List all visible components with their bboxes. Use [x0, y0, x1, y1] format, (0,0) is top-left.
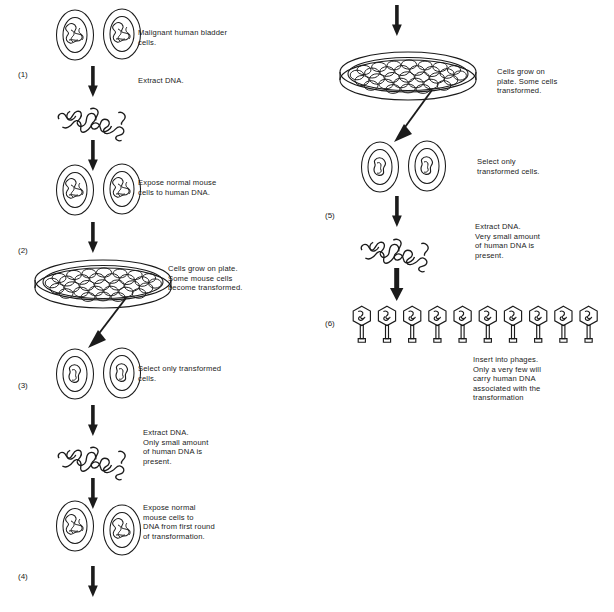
- dna-tangle-very-small-human: [355, 229, 445, 267]
- step-number-6: (6): [325, 319, 335, 328]
- label-select-transformed-1: Select only transformed cells.: [138, 364, 221, 383]
- dna-tangle-small-human: [52, 437, 142, 475]
- cell-pair-mouse-normal-2: [55, 498, 150, 560]
- cell-pair-malignant-bladder: [55, 8, 150, 64]
- arrow-down-9: [390, 268, 404, 304]
- label-expose-mouse-first-round: Expose normal mouse cells to DNA from fi…: [143, 503, 215, 541]
- dna-tangle-human: [52, 98, 142, 136]
- cell-pair-mouse-normal-1: [55, 163, 150, 219]
- pointer-arrow-dish-to-cells-1: [82, 296, 132, 352]
- arrow-down-4: [88, 405, 100, 438]
- label-cells-grow-plate-1: Cells grow on plate. Some mouse cells be…: [168, 264, 243, 293]
- cell-pair-transformed-1: [55, 347, 150, 403]
- arrow-down-8: [392, 196, 404, 229]
- step-number-3: (3): [18, 381, 28, 390]
- label-extract-dna-3: Extract DNA. Very small amount of human …: [475, 222, 540, 260]
- step-number-1: (1): [18, 70, 28, 79]
- label-expose-mouse-human-dna: Expose normal mouse cells to human DNA.: [138, 178, 216, 197]
- cell-pair-transformed-2: [360, 140, 455, 196]
- arrow-down-1: [88, 66, 100, 99]
- phage-row: [351, 305, 599, 347]
- arrow-down-6: [88, 566, 100, 599]
- pointer-arrow-dish-to-cells-2: [386, 88, 438, 146]
- label-extract-dna-1: Extract DNA.: [138, 76, 184, 86]
- label-insert-phages: Insert into phages. Only a very few will…: [473, 355, 541, 403]
- label-malignant-cells: Malignant human bladder cells.: [138, 28, 227, 47]
- figure-canvas: (1) (2) (3) (4) Malignant human bladder …: [0, 0, 614, 612]
- label-cells-grow-plate-2: Cells grow on plate. Some cells transfor…: [497, 67, 557, 96]
- arrow-down-3: [88, 222, 100, 255]
- label-extract-dna-2: Extract DNA. Only small amount of human …: [143, 428, 208, 466]
- arrow-down-7: [392, 5, 404, 38]
- step-number-5: (5): [325, 211, 335, 220]
- label-select-transformed-2: Select only transformed cells.: [477, 157, 540, 176]
- step-number-2: (2): [18, 246, 28, 255]
- step-number-4: (4): [18, 572, 28, 581]
